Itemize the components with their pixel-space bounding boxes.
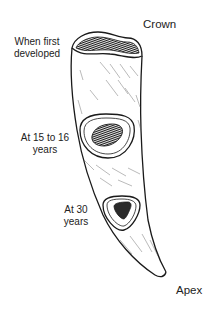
- label-15-to-16-years: At 15 to 16 years: [18, 132, 72, 156]
- label-mid-line2: years: [18, 144, 72, 156]
- label-late-line2: years: [60, 216, 92, 228]
- label-first-developed: When first developed: [12, 36, 62, 60]
- label-first-line2: developed: [12, 48, 62, 60]
- tooth-body: [71, 48, 166, 277]
- label-crown: Crown: [143, 18, 176, 30]
- label-first-line1: When first: [12, 36, 62, 48]
- label-apex: Apex: [176, 284, 202, 296]
- mid-section: [80, 114, 134, 158]
- crown-section: [72, 32, 142, 58]
- label-mid-line1: At 15 to 16: [18, 132, 72, 144]
- label-30-years: At 30 years: [60, 204, 92, 228]
- label-late-line1: At 30: [60, 204, 92, 216]
